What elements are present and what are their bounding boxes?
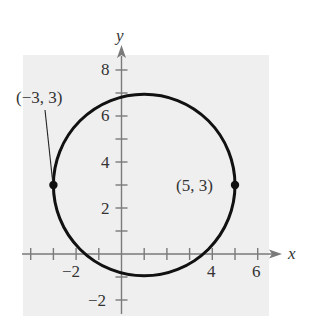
y-axis-label: y — [114, 26, 124, 45]
y-tick-label-4: 4 — [101, 153, 110, 172]
point-label-5-3: (5, 3) — [176, 176, 213, 195]
y-tick-label-2: 2 — [101, 199, 110, 218]
y-tick-label-8: 8 — [101, 60, 110, 79]
x-tick-label-neg2: −2 — [62, 262, 80, 281]
point-label-neg3-3: (−3, 3) — [16, 88, 62, 107]
point-5-3 — [231, 181, 239, 189]
x-axis-label: x — [287, 244, 296, 263]
x-tick-label-6: 6 — [252, 262, 261, 281]
point-neg3-3 — [49, 181, 57, 189]
y-tick-label-6: 6 — [101, 106, 110, 125]
circle-diagram: x y −2 4 6 8 6 4 2 −2 (−3, 3) (5, 3) — [0, 0, 313, 327]
x-tick-label-4: 4 — [207, 262, 216, 281]
y-tick-label-neg2: −2 — [88, 291, 106, 310]
